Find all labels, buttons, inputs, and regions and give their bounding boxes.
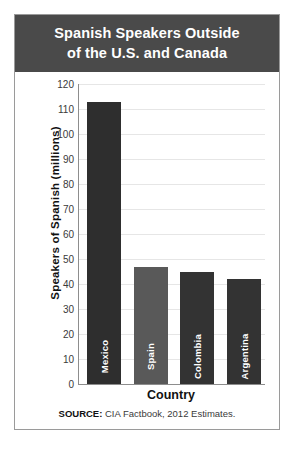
bar-label: Colombia — [192, 334, 203, 379]
source-prefix: SOURCE: — [59, 408, 103, 419]
x-axis-title: Country — [78, 388, 264, 402]
source-note: SOURCE: CIA Factbook, 2012 Estimates. — [15, 408, 279, 419]
bar-colombia[interactable]: Colombia — [180, 272, 214, 385]
bar-label: Argentina — [238, 333, 249, 379]
bar-label: Spain — [145, 343, 156, 370]
y-tick-label: 120 — [57, 79, 74, 90]
bar-mexico[interactable]: Mexico — [87, 102, 121, 385]
y-tick-label: 30 — [63, 304, 74, 315]
y-tick-label: 0 — [68, 379, 74, 390]
bar-argentina[interactable]: Argentina — [227, 279, 261, 384]
y-tick-label: 40 — [63, 279, 74, 290]
y-tick-label: 90 — [63, 154, 74, 165]
bar-label: Mexico — [99, 340, 110, 373]
chart-body: Speakers of Spanish (millions) 010203040… — [15, 72, 279, 429]
y-tick-label: 50 — [63, 254, 74, 265]
title-line-1: Spanish Speakers Outside — [54, 24, 239, 43]
y-tick-label: 20 — [63, 329, 74, 340]
chart-page: Spanish Speakers Outside of the U.S. and… — [0, 0, 294, 455]
title-line-2: of the U.S. and Canada — [54, 44, 239, 63]
y-tick-label: 110 — [58, 104, 74, 115]
source-text: CIA Factbook, 2012 Estimates. — [102, 408, 235, 419]
y-tick-label: 80 — [63, 179, 74, 190]
y-tick-label: 70 — [63, 204, 74, 215]
y-tick-label: 60 — [63, 229, 74, 240]
chart-frame: Spanish Speakers Outside of the U.S. and… — [14, 14, 280, 430]
bar-series: MexicoSpainColombiaArgentina — [79, 84, 265, 384]
page-title: Spanish Speakers Outside of the U.S. and… — [48, 24, 245, 62]
plot-area: 0102030405060708090100110120 MexicoSpain… — [78, 84, 265, 385]
chart-title-banner: Spanish Speakers Outside of the U.S. and… — [15, 15, 279, 72]
y-tick-label: 100 — [57, 129, 74, 140]
y-tick-label: 10 — [63, 354, 74, 365]
bar-spain[interactable]: Spain — [134, 267, 168, 385]
